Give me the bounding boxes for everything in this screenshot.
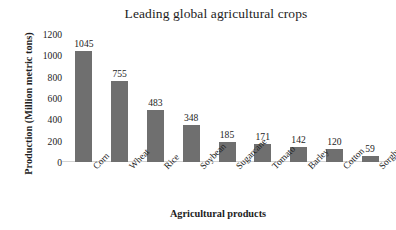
bar[interactable]: [75, 51, 92, 162]
bar-group[interactable]: 483: [147, 34, 164, 162]
bar-group[interactable]: 59: [362, 34, 379, 162]
x-tick-label: Barley: [306, 164, 313, 171]
x-tick-label: Wheat: [127, 164, 134, 171]
x-tick-label: Cotton: [341, 164, 348, 171]
bar-value-label: 185: [220, 129, 234, 140]
bar-value-label: 1045: [74, 38, 93, 49]
x-tick-label: Soybean: [198, 164, 205, 171]
bar-group[interactable]: 120: [326, 34, 343, 162]
bar-value-label: 483: [148, 97, 162, 108]
y-tick-label: 0: [28, 157, 62, 168]
bar[interactable]: [362, 156, 379, 162]
x-tick-label: Sorghum: [377, 164, 384, 171]
bar-group[interactable]: 142: [290, 34, 307, 162]
y-tick-label: 800: [28, 71, 62, 82]
y-tick-label: 200: [28, 135, 62, 146]
y-tick-label: 600: [28, 93, 62, 104]
bar-group[interactable]: 1045: [75, 34, 92, 162]
y-tick-label: 1000: [28, 50, 62, 61]
bar-value-label: 755: [112, 68, 126, 79]
x-axis-title: Agricultural products: [40, 208, 396, 219]
bar-value-label: 348: [184, 112, 198, 123]
y-tick-label: 1200: [28, 29, 62, 40]
x-tick-label: Rice: [162, 164, 169, 171]
bar-group[interactable]: 755: [111, 34, 128, 162]
bar-group[interactable]: 348: [183, 34, 200, 162]
bar[interactable]: [183, 125, 200, 162]
bar-value-label: 120: [327, 136, 341, 147]
y-tick-label: 400: [28, 114, 62, 125]
x-tick-label: Corn: [91, 164, 98, 171]
bar-value-label: 142: [291, 134, 305, 145]
x-tick-label: Tomato: [270, 164, 277, 171]
plot-area: 104575548334818517114212059: [66, 34, 388, 162]
y-axis-ticks: 020040060080010001200: [28, 0, 62, 230]
x-tick-label: Sugarcane: [234, 164, 241, 171]
bar-chart: Leading global agricultural crops Produc…: [0, 0, 396, 230]
x-axis-ticks: CornWheatRiceSoybeanSugarcaneTomatoBarle…: [66, 164, 388, 208]
bar[interactable]: [111, 81, 128, 162]
